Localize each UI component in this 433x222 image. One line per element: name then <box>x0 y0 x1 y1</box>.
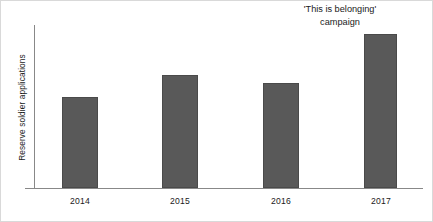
campaign-annotation: 'This is belonging' campaign <box>277 3 403 28</box>
bar-2014[interactable] <box>62 97 98 188</box>
bar-2017[interactable] <box>364 34 397 188</box>
annotation-line-2: campaign <box>277 16 403 29</box>
chart-figure: Reserve soldier applications 2014 2015 2… <box>0 0 433 222</box>
bar-2015[interactable] <box>162 75 198 188</box>
bar-2016[interactable] <box>263 83 299 188</box>
x-tick-label-2016: 2016 <box>251 196 311 206</box>
x-tick-label-2017: 2017 <box>351 196 411 206</box>
x-tick-label-2014: 2014 <box>50 196 110 206</box>
annotation-line-1: 'This is belonging' <box>277 3 403 16</box>
plot-area <box>1 1 433 222</box>
x-tick-label-2015: 2015 <box>150 196 210 206</box>
